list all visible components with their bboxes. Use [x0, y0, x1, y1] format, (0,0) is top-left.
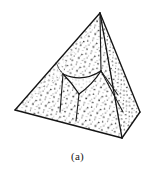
figure-caption: (a): [0, 150, 155, 162]
figure-container: (a): [0, 0, 155, 174]
tetrahedron-diagram: [0, 0, 155, 150]
